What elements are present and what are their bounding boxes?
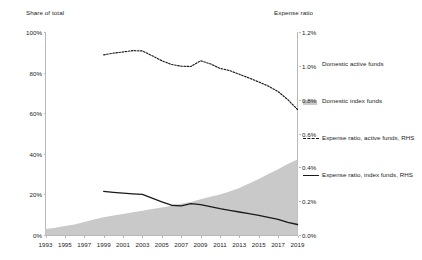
x-tick-label: 2005 xyxy=(155,241,169,248)
right-tick-mark xyxy=(299,134,301,135)
x-tick-label: 2001 xyxy=(116,241,130,248)
right-tick-label: 0.8% xyxy=(302,96,316,103)
chart-container: Share of total Expense ratio Domestic ac… xyxy=(0,0,422,260)
left-tick-mark xyxy=(44,32,46,33)
legend-item-expense-ratio-index: Expense ratio, index funds, RHS xyxy=(303,169,421,206)
right-tick-label: 0.2% xyxy=(302,198,316,205)
x-tick-label: 2013 xyxy=(232,241,246,248)
line-expense-ratio-active-funds xyxy=(104,51,298,110)
area-domestic-index-funds xyxy=(46,159,298,235)
x-tick-label: 2015 xyxy=(252,241,266,248)
left-tick-label: 80% xyxy=(20,69,42,76)
legend-item-expense-ratio-active: Expense ratio, active funds, RHS xyxy=(303,132,421,169)
x-tick-label: 1997 xyxy=(77,241,91,248)
right-tick-label: 1.2% xyxy=(302,29,316,36)
solid-line-icon xyxy=(303,175,319,176)
right-tick-mark xyxy=(299,32,301,33)
x-tick-mark xyxy=(84,236,85,238)
left-tick-label: 100% xyxy=(20,29,42,36)
right-tick-mark xyxy=(299,167,301,168)
dashed-line-icon xyxy=(303,138,319,139)
left-tick-mark xyxy=(44,194,46,195)
left-tick-mark xyxy=(44,154,46,155)
x-tick-mark xyxy=(181,236,182,238)
right-tick-label: 0.4% xyxy=(302,164,316,171)
right-tick-label: 1.0% xyxy=(302,62,316,69)
chart-legend: Domestic active funds Domestic index fun… xyxy=(303,58,421,206)
x-tick-label: 2003 xyxy=(135,241,149,248)
x-tick-mark xyxy=(278,236,279,238)
x-tick-label: 1995 xyxy=(58,241,72,248)
legend-label: Expense ratio, index funds, RHS xyxy=(322,171,413,178)
left-tick-label: 40% xyxy=(20,150,42,157)
x-tick-label: 2009 xyxy=(194,241,208,248)
x-tick-mark xyxy=(162,236,163,238)
x-tick-label: 2007 xyxy=(174,241,188,248)
left-tick-mark xyxy=(44,73,46,74)
right-tick-mark xyxy=(299,235,301,236)
x-tick-mark xyxy=(104,236,105,238)
legend-item-domestic-active-funds: Domestic active funds xyxy=(303,58,421,95)
x-tick-mark xyxy=(65,236,66,238)
right-tick-mark xyxy=(299,66,301,67)
left-tick-label: 20% xyxy=(20,191,42,198)
x-tick-mark xyxy=(46,236,47,238)
x-tick-mark xyxy=(239,236,240,238)
x-tick-label: 2019 xyxy=(291,241,305,248)
legend-item-domestic-index-funds: Domestic index funds xyxy=(303,95,421,132)
x-tick-mark xyxy=(123,236,124,238)
right-tick-mark xyxy=(299,201,301,202)
x-tick-mark xyxy=(220,236,221,238)
x-tick-label: 1993 xyxy=(39,241,53,248)
x-tick-label: 2011 xyxy=(213,241,227,248)
x-tick-label: 2017 xyxy=(271,241,285,248)
right-tick-mark xyxy=(299,100,301,101)
x-tick-mark xyxy=(259,236,260,238)
legend-label: Expense ratio, active funds, RHS xyxy=(322,134,414,141)
x-tick-mark xyxy=(142,236,143,238)
right-tick-label: 0.0% xyxy=(302,232,316,239)
left-tick-label: 60% xyxy=(20,110,42,117)
left-tick-mark xyxy=(44,113,46,114)
legend-label: Domestic active funds xyxy=(322,60,384,67)
legend-label: Domestic index funds xyxy=(322,97,382,104)
x-tick-label: 1999 xyxy=(97,241,111,248)
left-tick-label: 0% xyxy=(20,232,42,239)
x-tick-mark xyxy=(298,236,299,238)
right-tick-label: 0.6% xyxy=(302,130,316,137)
x-tick-mark xyxy=(201,236,202,238)
